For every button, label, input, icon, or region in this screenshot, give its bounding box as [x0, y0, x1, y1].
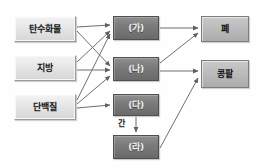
- node-lung: 폐: [201, 16, 249, 42]
- diagram-canvas: 탄수화물지방단백질(가)(나)(다)(라)폐콩팥 간: [0, 0, 259, 167]
- arrow-ra-to-kidney: [160, 78, 198, 148]
- arrow-fat-to-ga: [77, 31, 110, 62]
- node-kidney: 콩팥: [201, 60, 249, 88]
- node-ra: (라): [113, 135, 159, 159]
- arrow-protein-to-na: [77, 76, 110, 104]
- arrow-protein-to-da: [77, 105, 110, 108]
- arrow-na-to-lung: [160, 33, 198, 63]
- arrow-protein-to-ga: [77, 34, 110, 100]
- node-carb: 탄수화물: [14, 16, 76, 42]
- node-protein: 단백질: [14, 94, 76, 120]
- arrow-carb-to-ga: [77, 25, 110, 27]
- edge-group: [77, 25, 198, 148]
- node-da: (다): [113, 94, 159, 116]
- edge-label-liver: 간: [118, 120, 125, 128]
- arrow-carb-to-na: [77, 31, 110, 66]
- node-na: (나): [113, 57, 159, 81]
- node-ga: (가): [113, 16, 159, 40]
- node-fat: 지방: [14, 55, 76, 81]
